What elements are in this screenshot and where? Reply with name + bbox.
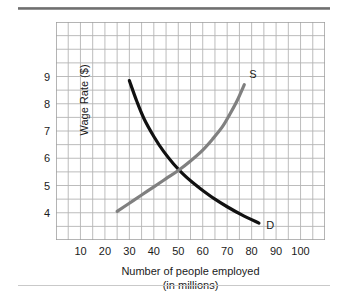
x-tick-label: 70	[214, 246, 240, 257]
x-axis-title: Number of people employed (in millions)	[56, 264, 325, 292]
curve-label-s: S	[249, 69, 256, 80]
y-tick-label: 8	[34, 99, 50, 110]
x-tick-label: 80	[239, 246, 265, 257]
bottom-divider-rule	[18, 285, 330, 286]
x-tick-label: 20	[92, 246, 118, 257]
x-axis-title-line1: Number of people employed	[56, 264, 325, 278]
x-tick-label: 30	[116, 246, 142, 257]
plot-area: 456789 102030405060708090100 DS Wage Rat…	[56, 22, 325, 240]
y-tick-label: 5	[34, 181, 50, 192]
y-tick-label: 7	[34, 126, 50, 137]
x-tick-label: 60	[190, 246, 216, 257]
x-tick-label: 50	[165, 246, 191, 257]
y-tick-label: 6	[34, 153, 50, 164]
x-tick-label: 10	[68, 246, 94, 257]
y-axis-title: Wage Rate ($)	[78, 40, 90, 160]
curve-label-d: D	[266, 220, 274, 231]
y-tick-label: 9	[34, 72, 50, 83]
y-tick-label: 4	[34, 208, 50, 219]
x-tick-label: 90	[263, 246, 289, 257]
top-divider-rule	[18, 7, 330, 10]
x-tick-label: 100	[288, 246, 314, 257]
y-axis-ticks: 456789	[56, 22, 325, 240]
figure-root: 456789 102030405060708090100 DS Wage Rat…	[0, 0, 348, 301]
x-tick-label: 40	[141, 246, 167, 257]
